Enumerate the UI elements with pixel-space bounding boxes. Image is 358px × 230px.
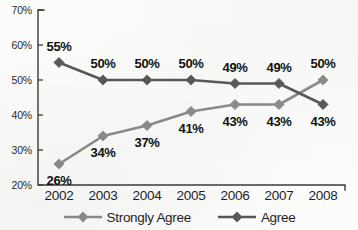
- legend-label: Strongly Agree: [107, 210, 191, 225]
- legend-marker-icon: [217, 210, 257, 224]
- data-point-marker: [318, 99, 328, 109]
- data-label: 26%: [37, 173, 81, 188]
- data-label: 37%: [125, 135, 169, 150]
- axis-lines: [38, 10, 345, 190]
- data-point-marker: [54, 57, 64, 67]
- data-label: 43%: [213, 114, 257, 129]
- data-point-marker: [318, 75, 328, 85]
- data-point-marker: [142, 75, 152, 85]
- data-label: 50%: [81, 56, 125, 71]
- data-label: 43%: [257, 114, 301, 129]
- data-label: 49%: [257, 60, 301, 75]
- data-point-marker: [142, 120, 152, 130]
- data-point-marker: [230, 78, 240, 88]
- data-point-marker: [274, 99, 284, 109]
- data-point-marker: [186, 75, 196, 85]
- legend-item-strongly-agree[interactable]: Strongly Agree: [63, 210, 191, 225]
- data-label: 50%: [125, 56, 169, 71]
- legend-item-agree[interactable]: Agree: [217, 210, 296, 225]
- data-point-marker: [98, 75, 108, 85]
- data-label: 34%: [81, 145, 125, 160]
- legend-marker-icon: [63, 210, 103, 224]
- data-label: 49%: [213, 60, 257, 75]
- data-label: 43%: [301, 114, 345, 129]
- data-label: 41%: [169, 121, 213, 136]
- chart-legend: Strongly AgreeAgree: [0, 206, 358, 228]
- line-chart: 70%60%50%40%30%20% 200220032004200520062…: [0, 0, 358, 230]
- data-label: 50%: [301, 56, 345, 71]
- data-point-marker: [230, 99, 240, 109]
- data-label: 55%: [37, 39, 81, 54]
- data-point-marker: [186, 106, 196, 116]
- data-point-marker: [274, 78, 284, 88]
- legend-label: Agree: [261, 210, 296, 225]
- data-label: 50%: [169, 56, 213, 71]
